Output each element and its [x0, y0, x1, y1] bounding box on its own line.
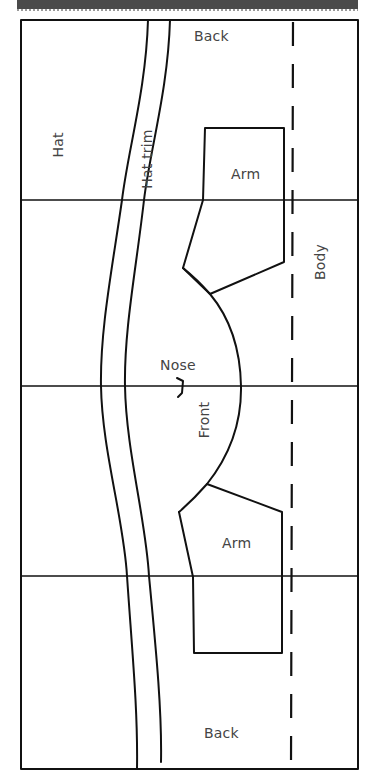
label-body: Body: [312, 244, 328, 280]
label-hat-trim: Hat trim: [139, 129, 155, 188]
label-arm-bottom: Arm: [222, 535, 251, 551]
label-hat: Hat: [50, 132, 66, 157]
fold-dashed-line: [291, 22, 293, 769]
pattern-outer-border: [21, 20, 358, 769]
label-back-bottom: Back: [204, 725, 239, 741]
label-arm-top: Arm: [231, 166, 260, 182]
front-curve: [179, 268, 241, 512]
upper-arm-outline: [183, 128, 284, 294]
label-back-top: Back: [194, 28, 229, 44]
nose-notch-icon: [177, 378, 183, 397]
pattern-drawing: [0, 0, 370, 779]
label-front: Front: [196, 402, 212, 438]
lower-arm-outline: [179, 484, 282, 653]
label-nose: Nose: [160, 357, 196, 373]
